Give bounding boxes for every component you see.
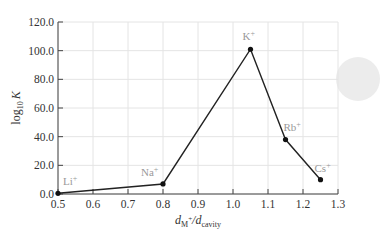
data-point (248, 47, 253, 52)
data-point (160, 181, 165, 186)
y-tick-label: 100.0 (28, 45, 54, 57)
x-tick-label: 1.3 (331, 198, 346, 210)
point-label: Li+ (63, 174, 78, 187)
x-tick-label: 1.2 (296, 198, 311, 210)
x-axis-title: dM+/dcavity (175, 213, 221, 229)
x-tick-label: 0.8 (156, 198, 171, 210)
y-tick-label: 120.0 (28, 16, 54, 28)
series-line (58, 49, 321, 193)
x-tick-label: 1.0 (226, 198, 241, 210)
data-point (318, 177, 323, 182)
data-point (55, 191, 60, 196)
x-tick-label: 0.6 (86, 198, 101, 210)
y-tick-label: 40.0 (34, 131, 54, 143)
y-tick-label: 0.0 (40, 188, 55, 200)
x-tick-label: 0.9 (191, 198, 206, 210)
grid (58, 22, 338, 194)
x-tick-label: 0.7 (121, 198, 136, 210)
y-axis-title: log10K (9, 90, 25, 124)
point-label: Na+ (141, 165, 159, 178)
y-tick-label: 60.0 (34, 102, 54, 114)
y-tick-label: 80.0 (34, 73, 54, 85)
point-label: Cs+ (315, 161, 332, 174)
y-tick-label: 20.0 (34, 159, 54, 171)
x-tick-label: 1.1 (261, 198, 276, 210)
data-point (283, 137, 288, 142)
point-label: Rb+ (284, 120, 302, 133)
point-label: K+ (243, 29, 256, 42)
